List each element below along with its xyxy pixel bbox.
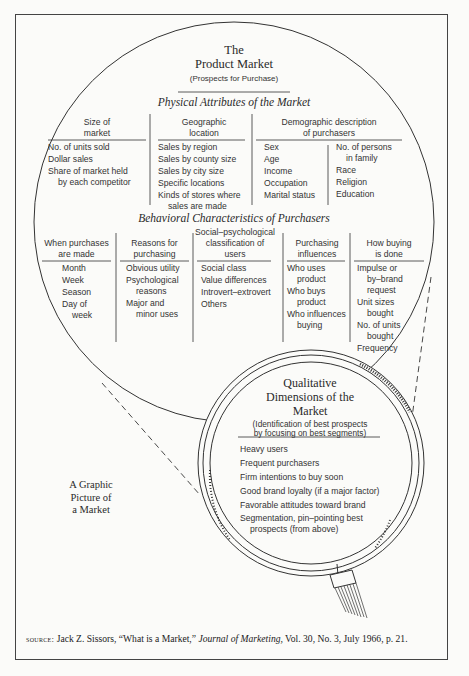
qualitative-list: Heavy users Frequent purchasers Firm int… xyxy=(240,443,400,536)
qualitative-title-line1: Qualitative xyxy=(283,377,336,389)
list-item: Specific locations xyxy=(158,178,250,189)
list-item: Frequent purchasers xyxy=(240,457,400,470)
list-item: Religion xyxy=(336,177,406,188)
list-item: Sales by city size xyxy=(158,166,250,177)
list-item: Dollar sales xyxy=(48,154,146,165)
list-item: Who influences xyxy=(287,309,347,320)
list-item: bought xyxy=(357,308,424,319)
list-item: Sales by county size xyxy=(158,154,250,165)
source-label: source: xyxy=(26,634,54,644)
source-volume-date: Vol. 30, No. 3, July 1966, p. 21. xyxy=(283,633,408,644)
column-header: How buying xyxy=(354,238,424,249)
list-item: Occupation xyxy=(264,178,334,189)
list-item: Who buys xyxy=(287,286,347,297)
list-item: Others xyxy=(201,299,275,310)
list-item: Social class xyxy=(201,263,275,274)
source-author-title: Jack Z. Sissors, “What is a Market,” xyxy=(54,633,198,644)
behavioral-column-when: When purchasesare made Month Week Season… xyxy=(42,238,111,322)
list-item: Value differences xyxy=(201,275,275,286)
column-header: purchasing xyxy=(120,249,189,260)
list-item: Frequency xyxy=(357,343,424,354)
list-item: No. of units xyxy=(357,320,424,331)
graphic-picture-label: A Graphic Picture of a Market xyxy=(60,479,122,517)
list-item: Sex xyxy=(264,142,334,153)
source-journal: Journal of Marketing, xyxy=(198,633,282,644)
list-item: Obvious utility xyxy=(126,263,189,274)
list-item: Season xyxy=(62,287,111,298)
source-citation: source: Jack Z. Sissors, “What is a Mark… xyxy=(26,632,436,646)
product-market-subtitle: (Prospects for Purchase) xyxy=(190,75,278,83)
list-item: product xyxy=(287,297,347,308)
list-item: Firm intentions to buy soon xyxy=(240,471,400,484)
list-item: Who uses xyxy=(287,263,347,274)
behavioral-column-influences: Purchasinginfluences Who uses product Wh… xyxy=(287,238,347,332)
list-item: by–brand xyxy=(357,274,424,285)
list-item: No. of units sold xyxy=(48,142,146,153)
list-item: Good brand loyalty (if a major factor) xyxy=(240,485,400,498)
list-item: Unit sizes xyxy=(357,297,424,308)
list-item: reasons xyxy=(126,286,189,297)
list-item: minor uses xyxy=(126,309,189,320)
physical-column-size: Size ofmarket No. of units sold Dollar s… xyxy=(48,117,146,189)
column-header: of purchasers xyxy=(256,128,402,139)
qualitative-title-line2: Dimensions of the xyxy=(266,391,354,403)
list-item: product xyxy=(287,274,347,285)
list-item: Marital status xyxy=(264,190,334,201)
column-header: Demographic description xyxy=(256,117,402,128)
list-item: Age xyxy=(264,154,334,165)
physical-attributes-heading: Physical Attributes of the Market xyxy=(158,97,310,109)
list-item: bought xyxy=(357,331,424,342)
label-line: a Market xyxy=(60,504,122,517)
qualitative-subtitle-line2: by focusing on best segments) xyxy=(254,429,367,437)
column-header: classification of xyxy=(195,238,275,249)
column-header: Reasons for xyxy=(120,238,189,249)
list-item: Month xyxy=(62,263,111,274)
qualitative-title-line3: Market xyxy=(293,405,328,417)
label-line: A Graphic xyxy=(60,479,122,492)
column-header: influences xyxy=(287,249,347,260)
list-item: Major and xyxy=(126,298,189,309)
list-item: Race xyxy=(336,165,406,176)
list-item: Income xyxy=(264,166,334,177)
list-item: prospects (from above) xyxy=(240,524,400,535)
list-item: Segmentation, pin–pointing best xyxy=(240,513,400,524)
list-item: in family xyxy=(336,153,406,164)
list-item: Education xyxy=(336,189,406,200)
list-item: Favorable attitudes toward brand xyxy=(240,499,400,512)
list-item: Sales by region xyxy=(158,142,250,153)
list-item: by each competitor xyxy=(48,177,146,188)
list-item: Impulse or xyxy=(357,263,424,274)
column-header: Purchasing xyxy=(287,238,347,249)
column-header: Size of xyxy=(48,117,146,128)
list-item: No. of persons xyxy=(336,142,406,153)
list-item: Share of market held xyxy=(48,166,146,177)
list-item: buying xyxy=(287,320,347,331)
behavioral-characteristics-heading: Behavioral Characteristics of Purchasers xyxy=(138,213,330,225)
list-item: Introvert–extrovert xyxy=(201,287,275,298)
physical-column-demographic: Demographic descriptionof purchasers Sex… xyxy=(256,117,402,142)
list-item: Kinds of stores where xyxy=(158,190,250,201)
column-header: Social–psychological xyxy=(195,227,275,238)
column-header: When purchases xyxy=(42,238,111,249)
column-header: is done xyxy=(354,249,424,260)
column-header: users xyxy=(195,249,275,260)
column-header: Geographic xyxy=(158,117,250,128)
list-item: sales are made xyxy=(158,201,250,212)
list-item: Day of xyxy=(62,299,111,310)
product-market-title-line1: The xyxy=(224,44,243,57)
list-item: Psychological xyxy=(126,275,189,286)
list-item: week xyxy=(62,310,111,321)
behavioral-column-social-psychological: Social–psychologicalclassification ofuse… xyxy=(195,227,275,311)
list-item: Week xyxy=(62,275,111,286)
label-line: Picture of xyxy=(60,492,122,505)
list-item: Heavy users xyxy=(240,443,400,456)
column-header: location xyxy=(158,128,250,139)
physical-column-geographic: Geographiclocation Sales by region Sales… xyxy=(158,117,250,213)
behavioral-column-reasons: Reasons forpurchasing Obvious utility Ps… xyxy=(120,238,189,321)
product-market-title-line2: Product Market xyxy=(195,58,273,71)
column-header: market xyxy=(48,128,146,139)
list-item: request xyxy=(357,285,424,296)
column-header: are made xyxy=(42,249,111,260)
behavioral-column-how-buying: How buyingis done Impulse or by–brand re… xyxy=(354,238,424,355)
